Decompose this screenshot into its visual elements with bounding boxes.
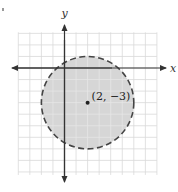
y-axis-label: y bbox=[61, 7, 69, 20]
center-point bbox=[86, 101, 90, 105]
coordinate-plane: x y (2, −3) bbox=[0, 0, 178, 192]
x-axis-label: x bbox=[170, 62, 177, 75]
center-point-label: (2, −3) bbox=[92, 90, 131, 103]
